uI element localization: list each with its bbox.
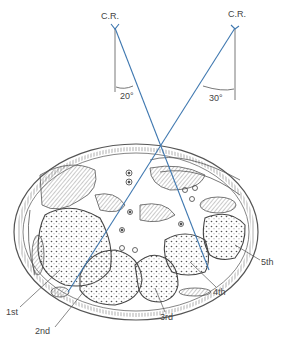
bone-label-4th: 4th — [213, 288, 226, 297]
bone-5th — [203, 214, 245, 259]
angle-30-label: 30° — [209, 94, 223, 103]
bone-4th — [164, 234, 208, 275]
angle-20-label: 20° — [120, 92, 134, 101]
wrist-cross-section-diagram — [0, 0, 286, 347]
cr-right-label: C.R. — [228, 10, 246, 19]
bone-label-5th: 5th — [261, 258, 274, 267]
bone-label-3rd: 3rd — [160, 313, 173, 322]
bone-label-2nd: 2nd — [35, 327, 50, 336]
cr-left-label: C.R. — [101, 12, 119, 21]
bone-label-1st: 1st — [6, 308, 18, 317]
angle-references — [115, 28, 235, 100]
